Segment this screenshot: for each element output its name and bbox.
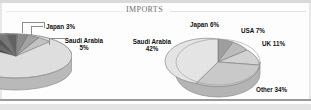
right-pie-label-uk: UK 11% [262, 40, 285, 47]
right-pie-label-japan: Japan 6% [190, 21, 219, 28]
right-pie-graphic [0, 0, 311, 110]
right-pie-label-saudi-arabia-value: 42% [146, 45, 159, 52]
right-pie-label-saudi-arabia: Saudi Arabia 42% [124, 38, 180, 53]
right-pie-label-other: Other 34% [256, 86, 287, 93]
imports-pie-chart-figure: Japan 3% Saudi Arabia 5% IMPORTS Saudi A… [0, 0, 311, 110]
right-pie-label-saudi-arabia-name: Saudi Arabia [133, 38, 171, 45]
right-pie-label-usa: USA 7% [241, 27, 265, 34]
